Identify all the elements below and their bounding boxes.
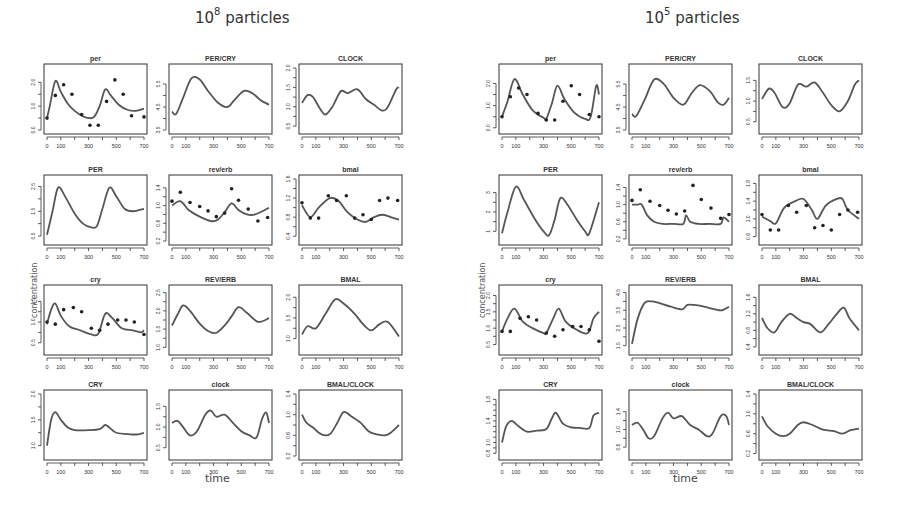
data-point [527, 315, 531, 319]
data-point [588, 113, 592, 117]
data-point [821, 224, 825, 228]
y-tick-label: 1.4 [745, 390, 751, 397]
model-curve [47, 303, 144, 335]
data-point [578, 93, 582, 97]
data-point [579, 325, 583, 329]
data-point [795, 210, 799, 214]
y-tick-label: 1.2 [285, 194, 291, 201]
model-curve [502, 413, 599, 443]
model-curve [172, 201, 269, 221]
x-tick-label: 100 [771, 469, 780, 475]
x-tick-label: 500 [697, 254, 706, 260]
data-point [54, 322, 58, 326]
y-tick-label: 0.5 [155, 444, 161, 451]
plot-frame [169, 175, 272, 245]
data-point [571, 325, 575, 329]
y-tick-label: 2.0 [155, 307, 161, 314]
data-point [142, 333, 146, 337]
data-point [179, 190, 183, 194]
x-tick-label: 700 [594, 469, 603, 475]
data-point [518, 317, 522, 321]
model-curve [47, 81, 144, 119]
y-tick-label: 1.0 [745, 215, 751, 222]
data-point [760, 213, 764, 217]
data-point [813, 226, 817, 230]
x-tick-label: 700 [394, 469, 403, 475]
subplot-title: BMAL/CLOCK [327, 381, 374, 388]
model-curve [502, 79, 599, 120]
x-tick-label: 300 [539, 364, 548, 370]
x-tick-label: 700 [264, 364, 273, 370]
subplot-title: bmal [802, 166, 818, 173]
x-tick-label: 100 [511, 254, 520, 260]
model-curve [302, 87, 399, 114]
data-point [658, 204, 662, 208]
x-tick-label: 500 [697, 364, 706, 370]
y-tick-label: 1.5 [155, 403, 161, 410]
model-curve [172, 305, 269, 333]
plot-frame [299, 175, 402, 245]
x-tick-label: 500 [827, 469, 836, 475]
y-tick-label: 2.0 [485, 292, 491, 299]
y-tick-label: 1.8 [745, 180, 751, 187]
x-tick-label: 700 [854, 469, 863, 475]
x-tick-label: 300 [669, 254, 678, 260]
y-tick-label: 1.0 [30, 318, 36, 325]
x-tick-label: 500 [237, 364, 246, 370]
x-tick-label: 700 [139, 469, 148, 475]
x-tick-label: 100 [641, 254, 650, 260]
data-point [121, 92, 125, 96]
x-tick-label: 700 [854, 254, 863, 260]
model-curve [172, 77, 269, 115]
y-tick-label: 1.0 [485, 439, 491, 446]
data-point [517, 86, 521, 90]
data-point [545, 118, 549, 122]
y-tick-label: 0.2 [155, 237, 161, 244]
x-tick-label: 100 [511, 364, 520, 370]
x-tick-label: 500 [827, 254, 836, 260]
subplot-title: cry [90, 276, 101, 284]
model-curve [762, 416, 859, 436]
y-tick-label: 3 [485, 191, 491, 194]
y-tick-label: 1.0 [30, 442, 36, 449]
y-tick-label: 0.6 [615, 218, 621, 225]
subplot-cry: cry01003005007000.51.01.52.0 [479, 273, 614, 395]
subplot-title: PER/CRY [665, 55, 696, 62]
data-point [266, 216, 270, 220]
x-tick-label: 100 [56, 469, 65, 475]
x-tick-label: 0 [630, 143, 633, 149]
data-point [188, 201, 192, 205]
y-tick-label: 3.5 [155, 126, 161, 133]
subplot-title: PER [543, 166, 557, 173]
x-tick-label: 300 [539, 143, 548, 149]
x-tick-label: 500 [367, 254, 376, 260]
x-tick-label: 0 [500, 254, 503, 260]
data-point [317, 216, 321, 220]
data-point [45, 116, 49, 120]
plot-frame [169, 390, 272, 460]
x-tick-label: 700 [394, 143, 403, 149]
data-point [369, 218, 373, 222]
subplot-clock: clock01003005007000.51.01.5 [149, 378, 284, 500]
data-point [500, 115, 504, 119]
x-tick-label: 700 [139, 143, 148, 149]
y-tick-label: 1.0 [155, 423, 161, 430]
plot-frame [629, 285, 732, 355]
subplot-title: BMAL [800, 276, 821, 283]
data-point [215, 215, 219, 219]
x-tick-label: 300 [799, 469, 808, 475]
x-tick-label: 300 [799, 364, 808, 370]
x-tick-label: 100 [771, 143, 780, 149]
subplot-bmal-clock: BMAL/CLOCK01003005007000.20.61.01.4 [739, 378, 874, 500]
y-tick-label: 1.5 [285, 314, 291, 321]
data-point [709, 206, 713, 210]
y-tick-label: 0.8 [745, 327, 751, 334]
data-point [535, 318, 539, 322]
data-point [230, 187, 234, 191]
data-point [98, 329, 102, 333]
x-tick-label: 300 [799, 254, 808, 260]
subplot-per-cry: PER/CRY01003005007003.54.55.5 [609, 52, 744, 174]
y-tick-label: 1.4 [285, 390, 291, 397]
x-tick-label: 100 [771, 254, 780, 260]
model-curve [762, 80, 859, 111]
